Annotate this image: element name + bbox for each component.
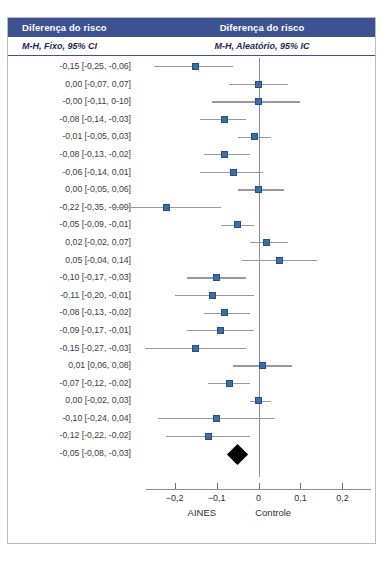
ci-row: 0,00 [-0,07, 0,07]	[8, 76, 141, 94]
forest-row	[141, 322, 376, 340]
effect-estimate-marker	[217, 327, 224, 334]
forest-row	[141, 76, 376, 94]
header-left-subtitle: M-H, Fixo, 95% CI	[22, 37, 97, 55]
effect-estimate-marker	[221, 309, 228, 316]
forest-row	[141, 234, 376, 252]
effect-estimate-marker	[255, 98, 262, 105]
header-right-title: Diferença do risco	[148, 18, 376, 37]
forest-row	[141, 199, 376, 217]
effect-estimate-marker	[221, 151, 228, 158]
ci-row: -0,10 [-0,17, -0,03]	[8, 269, 141, 287]
forest-row	[141, 216, 376, 234]
ci-row: -0,08 [-0,14, -0,03]	[8, 111, 141, 129]
forest-row	[141, 428, 376, 446]
ci-row: -0,10 [-0,24, 0,04]	[8, 410, 141, 428]
ci-row: -0,08 [-0,13, -0,02]	[8, 304, 141, 322]
x-axis-tick	[259, 483, 260, 489]
effect-estimate-marker	[205, 433, 212, 440]
forest-row	[141, 357, 376, 375]
effect-estimate-marker	[226, 380, 233, 387]
forest-row	[141, 111, 376, 129]
effect-estimate-marker	[276, 257, 283, 264]
summary-effect-diamond	[227, 444, 248, 465]
x-axis-line	[146, 489, 371, 490]
forest-row	[141, 287, 376, 305]
effect-estimate-marker	[251, 133, 258, 140]
summary-ci-row: -0,05 [-0,08, -0,03]	[8, 445, 141, 463]
ci-row: -0,08 [-0,13, -0,02]	[8, 146, 141, 164]
x-axis-tick-label: −0,1	[197, 493, 237, 503]
x-axis-tick-label: −0,2	[155, 493, 195, 503]
forest-row	[141, 410, 376, 428]
ci-row: 0,05 [-0,04, 0,14]	[8, 252, 141, 270]
effect-estimate-marker	[163, 204, 170, 211]
plot-area: −0,2−0,100,10,2AINESControle	[141, 58, 376, 538]
effect-estimate-marker	[255, 397, 262, 404]
effect-estimate-marker	[221, 116, 228, 123]
effect-estimate-marker	[213, 274, 220, 281]
effect-estimate-marker	[209, 292, 216, 299]
effect-estimate-marker	[255, 186, 262, 193]
forest-row	[141, 181, 376, 199]
x-axis-tick-label: 0,2	[322, 493, 362, 503]
forest-row	[141, 340, 376, 358]
x-axis-tick	[175, 483, 176, 489]
ci-row: 0,00 [-0,05, 0,06]	[8, 181, 141, 199]
forest-row	[141, 375, 376, 393]
forest-row	[141, 252, 376, 270]
forest-row	[141, 128, 376, 146]
effect-estimate-marker	[263, 239, 270, 246]
header-right-subtitle: M-H, Aleatório, 95% IC	[148, 37, 376, 55]
ci-row: -0,01 [-0,05, 0,03]	[8, 128, 141, 146]
ci-row: -0,05 [-0,09, -0,01]	[8, 216, 141, 234]
ci-row: -0,12 [-0,22, -0,02]	[8, 427, 141, 445]
effect-estimate-marker	[255, 81, 262, 88]
forest-row	[141, 58, 376, 76]
ci-row: -0,15 [-0,27, -0,03]	[8, 340, 141, 358]
ci-row: -0,07 [-0,12, -0,02]	[8, 375, 141, 393]
ci-text-column: -0,15 [-0,25, -0,06]0,00 [-0,07, 0,07]-0…	[8, 58, 141, 463]
forest-row	[141, 392, 376, 410]
axis-group-label: Controle	[228, 507, 318, 518]
forest-row	[141, 93, 376, 111]
forest-row	[141, 269, 376, 287]
header-band: Diferença do risco Diferença do risco	[8, 18, 375, 37]
header-left-title: Diferença do risco	[22, 18, 107, 37]
ci-row: -0,11 [-0,20, -0,01]	[8, 287, 141, 305]
x-axis-tick	[300, 483, 301, 489]
forest-plot-figure: Diferença do risco Diferença do risco M-…	[7, 17, 376, 544]
x-axis-tick	[217, 483, 218, 489]
x-axis-tick-label: 0	[239, 493, 279, 503]
header-subrow: M-H, Fixo, 95% CI M-H, Aleatório, 95% IC	[8, 37, 375, 56]
forest-row	[141, 304, 376, 322]
ci-row: 0,01 [0,06, 0,08]	[8, 357, 141, 375]
effect-estimate-marker	[230, 169, 237, 176]
effect-estimate-marker	[234, 221, 241, 228]
forest-row	[141, 146, 376, 164]
x-axis-tick-label: 0,1	[280, 493, 320, 503]
ci-row: -0,00 [-0,11, 0-10]	[8, 93, 141, 111]
x-axis-tick	[342, 483, 343, 489]
ci-row: -0,06 [-0,14, 0,01]	[8, 164, 141, 182]
effect-estimate-marker	[213, 415, 220, 422]
effect-estimate-marker	[192, 63, 199, 70]
forest-row	[141, 164, 376, 182]
ci-row: 0,02 [-0,02, 0,07]	[8, 234, 141, 252]
ci-row: 0,00 [-0,02, 0,03]	[8, 392, 141, 410]
effect-estimate-marker	[259, 362, 266, 369]
ci-row: -0,09 [-0,17, -0,01]	[8, 322, 141, 340]
effect-estimate-marker	[192, 345, 199, 352]
ci-row: -0,15 [-0,25, -0,06]	[8, 58, 141, 76]
summary-row	[141, 447, 376, 465]
